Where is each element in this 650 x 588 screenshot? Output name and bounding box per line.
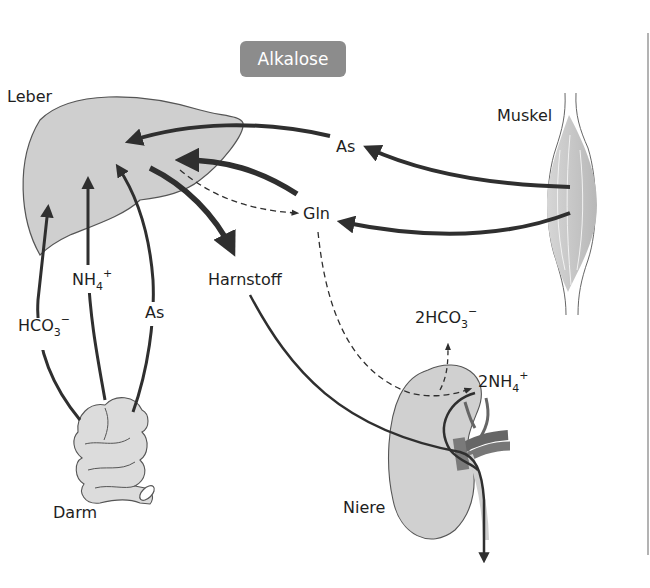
liver-label: Leber bbox=[7, 87, 52, 106]
kidney-label: Niere bbox=[343, 498, 385, 517]
intestine-label: Darm bbox=[53, 503, 97, 522]
intestine-organ: Darm bbox=[53, 398, 157, 522]
as-muscle-label: As bbox=[336, 137, 355, 156]
title-label: Alkalose bbox=[258, 49, 329, 69]
alkalosis-nitrogen-flow-diagram: Alkalose Leber Muskel Darm Niere bbox=[0, 0, 650, 588]
liver-organ: Leber bbox=[7, 87, 243, 255]
harnstoff-label: Harnstoff bbox=[208, 270, 283, 289]
hco3-kidney-label: 2HCO3− bbox=[415, 305, 477, 331]
arrow-muscle-to-gln bbox=[342, 213, 570, 234]
svg-text:2HCO3−: 2HCO3− bbox=[415, 305, 477, 331]
muscle-organ: Muskel bbox=[497, 93, 597, 315]
gln-label: Gln bbox=[303, 204, 330, 223]
title-badge: Alkalose bbox=[240, 41, 346, 77]
as-gut-label: As bbox=[145, 303, 164, 322]
nh4-kidney-label: 2NH4+ bbox=[478, 369, 528, 395]
svg-text:2NH4+: 2NH4+ bbox=[478, 369, 528, 395]
arrow-muscle-to-as bbox=[368, 148, 570, 187]
muscle-label: Muskel bbox=[497, 106, 552, 125]
